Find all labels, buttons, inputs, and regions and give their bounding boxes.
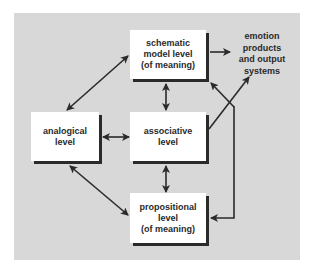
- schematic-line-3: (of meaning): [141, 60, 195, 71]
- associative-line-2: level: [144, 137, 193, 148]
- arrow-associative-output: [209, 77, 249, 129]
- emotion-output-label: emotion products and output systems: [231, 31, 293, 77]
- output-line-2: products: [231, 43, 293, 55]
- associative-line-1: associative: [144, 126, 193, 137]
- propositional-line-3: (of meaning): [140, 224, 197, 235]
- analogical-line-2: level: [43, 137, 87, 148]
- schematic-line-1: schematic: [141, 38, 195, 49]
- arrow-loop-schematic: [211, 83, 234, 107]
- arrow-analogical-propositional: [70, 166, 128, 215]
- associative-level-box: associative level: [130, 112, 206, 161]
- analogical-level-box: analogical level: [31, 112, 99, 161]
- propositional-line-2: level: [140, 213, 197, 224]
- output-line-4: systems: [231, 66, 293, 78]
- schematic-line-2: model level: [141, 49, 195, 60]
- schematic-model-level-box: schematic model level (of meaning): [130, 30, 206, 79]
- propositional-level-box: propositional level (of meaning): [130, 193, 206, 243]
- arrow-analogical-schematic: [67, 56, 128, 110]
- output-line-3: and output: [231, 54, 293, 66]
- analogical-line-1: analogical: [43, 126, 87, 137]
- output-line-1: emotion: [231, 31, 293, 43]
- propositional-line-1: propositional: [140, 202, 197, 213]
